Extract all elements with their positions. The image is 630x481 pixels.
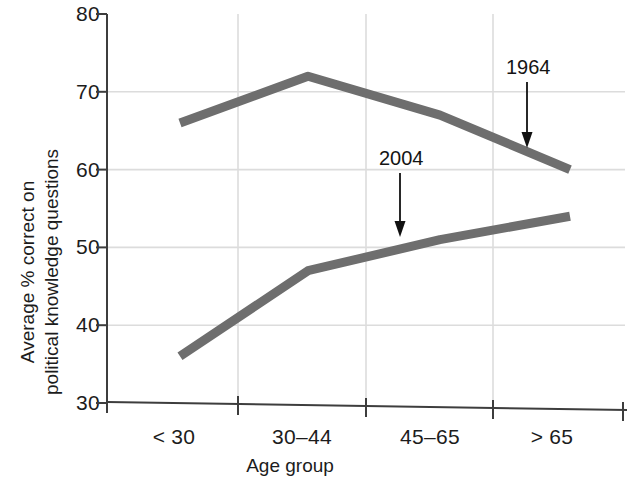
annotation-arrow-2004 [395, 173, 406, 237]
y-tick-marks [96, 14, 107, 403]
grid-lines-vertical [238, 14, 493, 404]
plot-area [0, 0, 630, 481]
chart-figure: 80 70 60 50 40 30 < 30 30–44 45–65 > 65 … [0, 0, 630, 481]
